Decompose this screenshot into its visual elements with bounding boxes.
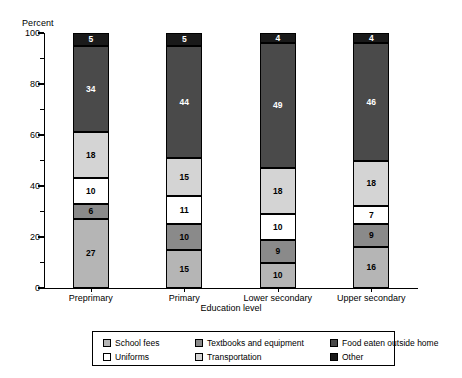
legend-swatch-icon xyxy=(195,353,203,361)
legend-item[interactable]: Uniforms xyxy=(103,352,195,362)
legend-item-label: School fees xyxy=(115,338,159,348)
bar-stack: 1091018494 xyxy=(260,33,296,288)
bar-segment: 11 xyxy=(166,196,202,224)
bar-segment: 15 xyxy=(166,250,202,288)
bar-segment: 7 xyxy=(353,206,389,224)
bar-segment-value: 10 xyxy=(273,223,282,232)
bar-stack: 169718464 xyxy=(353,33,389,288)
legend-swatch-icon xyxy=(330,353,338,361)
legend-item[interactable]: Other xyxy=(330,352,438,362)
legend: School feesTextbooks and equipmentFood e… xyxy=(92,331,395,366)
bar-segment-value: 18 xyxy=(273,187,282,196)
x-tick-label: Primary xyxy=(169,293,200,303)
chart-figure: Percent 020406080100 2761018345151011154… xyxy=(0,0,462,378)
legend-swatch-icon xyxy=(103,353,111,361)
bar-segment-value: 9 xyxy=(369,231,374,240)
legend-swatch-icon xyxy=(330,339,338,347)
bar-segment: 49 xyxy=(260,43,296,168)
bar-stack: 15101115445 xyxy=(166,33,202,288)
bar-segment: 16 xyxy=(353,247,389,288)
bar-segment-value: 46 xyxy=(367,98,376,107)
legend-items: School feesTextbooks and equipmentFood e… xyxy=(103,336,393,364)
bar-segment-value: 4 xyxy=(275,34,280,43)
bar-segment: 27 xyxy=(73,219,109,288)
x-tick xyxy=(278,288,279,292)
bar-segment-value: 15 xyxy=(180,265,189,274)
bar-segment: 4 xyxy=(353,33,389,43)
bar-segment: 5 xyxy=(73,33,109,46)
bar-segment: 9 xyxy=(260,240,296,263)
bar-segment-value: 16 xyxy=(367,263,376,272)
legend-swatch-icon xyxy=(103,339,111,347)
plot-area: 2761018345151011154451091018494169718464 xyxy=(44,33,418,288)
bar-stack: 2761018345 xyxy=(73,33,109,288)
bar-segment-value: 9 xyxy=(275,247,280,256)
bar-segment-value: 11 xyxy=(180,206,189,215)
bar-segment: 10 xyxy=(260,214,296,240)
bar-segment-value: 10 xyxy=(180,233,189,242)
x-tick xyxy=(91,288,92,292)
legend-item-label: Transportation xyxy=(207,352,262,362)
bar-segment-value: 15 xyxy=(180,173,189,182)
y-tick-label: 40 xyxy=(14,181,40,191)
y-tick-label: 100 xyxy=(14,28,40,38)
x-axis-title: Education level xyxy=(0,303,462,313)
bar-segment-value: 7 xyxy=(369,211,374,220)
bar-segment: 18 xyxy=(73,132,109,178)
bar-segment: 9 xyxy=(353,224,389,247)
legend-item[interactable]: Textbooks and equipment xyxy=(195,338,330,348)
legend-item[interactable]: Transportation xyxy=(195,352,330,362)
bar-segment: 6 xyxy=(73,204,109,219)
bar-segment-value: 4 xyxy=(369,34,374,43)
bar-segment-value: 44 xyxy=(180,98,189,107)
bar-segment: 44 xyxy=(166,46,202,158)
legend-swatch-icon xyxy=(195,339,203,347)
bar-segment: 5 xyxy=(166,33,202,46)
bar-segment-value: 5 xyxy=(88,35,93,44)
legend-item-label: Other xyxy=(342,352,363,362)
legend-item-label: Uniforms xyxy=(115,352,149,362)
bar-segment-value: 10 xyxy=(273,271,282,280)
bar-segment: 10 xyxy=(166,224,202,250)
bar-segment-value: 18 xyxy=(86,151,95,160)
bar-segment: 10 xyxy=(73,178,109,204)
y-tick-label: 60 xyxy=(14,130,40,140)
bar-segment: 15 xyxy=(166,158,202,196)
bar-segment-value: 49 xyxy=(273,101,282,110)
y-tick-label: 20 xyxy=(14,232,40,242)
bar-segment: 18 xyxy=(260,168,296,214)
x-tick-label: Preprimary xyxy=(69,293,113,303)
x-tick-label: Lower secondary xyxy=(243,293,312,303)
legend-item[interactable]: Food eaten outside home xyxy=(330,338,438,348)
y-tick-label: 80 xyxy=(14,79,40,89)
bar-segment-value: 5 xyxy=(182,35,187,44)
x-tick xyxy=(184,288,185,292)
bar-segment-value: 34 xyxy=(86,85,95,94)
bar-segment-value: 6 xyxy=(88,207,93,216)
bar-segment: 10 xyxy=(260,263,296,289)
legend-item[interactable]: School fees xyxy=(103,338,195,348)
y-axis-title: Percent xyxy=(22,18,54,28)
bar-segment-value: 27 xyxy=(86,249,95,258)
y-tick-label: 0 xyxy=(14,283,40,293)
x-tick-label: Upper secondary xyxy=(337,293,406,303)
bar-segment: 34 xyxy=(73,46,109,133)
bar-segment-value: 10 xyxy=(86,187,95,196)
bar-segment: 4 xyxy=(260,33,296,43)
bar-segment-value: 18 xyxy=(367,179,376,188)
legend-item-label: Textbooks and equipment xyxy=(207,338,304,348)
bar-segment: 18 xyxy=(353,161,389,207)
x-tick xyxy=(371,288,372,292)
bar-segment: 46 xyxy=(353,43,389,160)
legend-item-label: Food eaten outside home xyxy=(342,338,438,348)
